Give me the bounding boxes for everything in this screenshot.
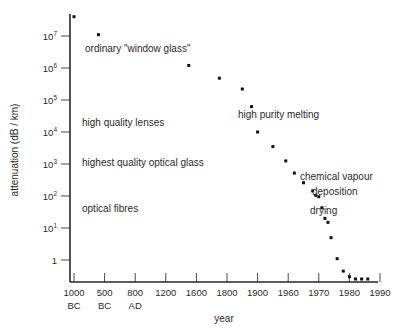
chart-annotation-label: ordinary "window glass" [85,43,191,54]
y-tick-label: 103 [43,158,58,170]
attenuation-vs-year-chart: 1071061051041031021011 1000BC500BC800AD1… [0,0,404,332]
data-point [218,77,221,80]
y-tick-label: 107 [43,30,58,42]
x-tick-label: 500 [97,287,113,298]
data-point [330,236,333,239]
x-tick-label: 1900 [247,287,268,298]
x-tick-label: 800 [127,287,143,298]
data-point [284,159,287,162]
data-point [342,270,345,273]
data-point [354,278,357,281]
x-axis-title: year [214,313,234,324]
y-tick-label: 105 [43,94,58,106]
data-point [250,105,253,108]
data-point [366,278,369,281]
x-tick-label: 1600 [186,287,207,298]
data-point [348,275,351,278]
data-point [293,172,296,175]
x-axis-ticks: 1000BC500BC800AD120016001800190019601970… [63,273,390,311]
x-tick-label: 1980 [339,287,360,298]
y-axis-ticks: 1071061051041031021011 [43,30,70,266]
y-tick-label: 102 [43,190,58,202]
data-point [336,257,339,260]
data-point [323,217,326,220]
x-tick-label: 1990 [369,287,390,298]
chart-annotations: ordinary "window glass"high quality lens… [82,43,373,216]
chart-annotation-label: high purity melting [238,109,319,120]
x-tick-label: 1970 [308,287,329,298]
data-point [360,278,363,281]
x-tick-label: 1800 [216,287,237,298]
x-tick-label: 1960 [278,287,299,298]
y-tick-label: 1 [52,255,57,266]
chart-annotation-label: high quality lenses [82,117,164,128]
chart-annotation-label: deposition [312,186,358,197]
data-point [326,221,329,224]
x-tick-sublabel: BC [67,300,80,311]
x-tick-sublabel: AD [129,300,142,311]
y-axis-title: attenuation (dB / km) [9,104,20,197]
data-point [97,33,100,36]
chart-annotation-label: optical fibres [82,203,138,214]
chart-plot-area: 1071061051041031021011 1000BC500BC800AD1… [0,0,404,332]
data-point [73,15,76,18]
chart-annotation-label: highest quality optical glass [82,157,204,168]
data-point [241,88,244,91]
x-tick-label: 1000 [63,287,84,298]
data-point-series [73,15,370,280]
x-tick-label: 1200 [155,287,176,298]
y-tick-label: 106 [43,62,58,74]
x-tick-sublabel: BC [98,300,111,311]
data-point [256,131,259,134]
data-point [187,64,190,67]
chart-annotation-label: drying [310,205,337,216]
y-tick-label: 104 [43,126,58,138]
data-point [271,145,274,148]
chart-annotation-label: chemical vapour [300,171,373,182]
y-tick-label: 101 [43,222,58,234]
